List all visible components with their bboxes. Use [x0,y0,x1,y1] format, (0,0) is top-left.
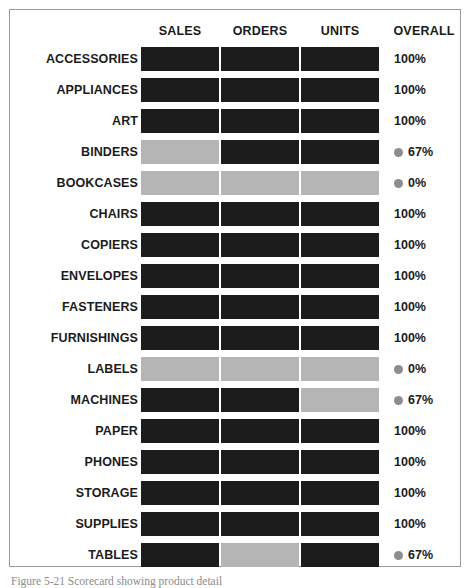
cell-units[interactable] [301,233,379,257]
table-row[interactable]: SUPPLIES100% [10,511,462,542]
row-label: ACCESSORIES [0,51,138,67]
cell-orders[interactable] [221,357,299,381]
overall-percent: 100% [394,300,426,314]
cell-sales[interactable] [141,140,219,164]
row-bars [141,264,379,288]
cell-units[interactable] [301,264,379,288]
cell-orders[interactable] [221,419,299,443]
cell-orders[interactable] [221,78,299,102]
cell-sales[interactable] [141,450,219,474]
row-label: ART [0,113,138,129]
table-row[interactable]: STORAGE100% [10,480,462,511]
cell-orders[interactable] [221,47,299,71]
alert-dot-icon [394,551,403,560]
table-row[interactable]: FURNISHINGS100% [10,325,462,356]
table-row[interactable]: TABLES67% [10,542,462,573]
cell-units[interactable] [301,109,379,133]
row-bars [141,202,379,226]
column-header-units: UNITS [301,22,379,40]
cell-sales[interactable] [141,78,219,102]
table-row[interactable]: COPIERS100% [10,232,462,263]
table-row[interactable]: ART100% [10,108,462,139]
table-row[interactable]: LABELS0% [10,356,462,387]
overall-score: 67% [386,546,462,564]
overall-percent: 0% [408,362,426,376]
cell-orders[interactable] [221,481,299,505]
cell-units[interactable] [301,388,379,412]
cell-units[interactable] [301,295,379,319]
cell-sales[interactable] [141,357,219,381]
cell-sales[interactable] [141,47,219,71]
cell-orders[interactable] [221,450,299,474]
cell-sales[interactable] [141,512,219,536]
cell-units[interactable] [301,419,379,443]
cell-orders[interactable] [221,512,299,536]
cell-orders[interactable] [221,264,299,288]
overall-percent: 100% [394,52,426,66]
cell-units[interactable] [301,481,379,505]
cell-units[interactable] [301,543,379,567]
table-row[interactable]: CHAIRS100% [10,201,462,232]
cell-orders[interactable] [221,326,299,350]
table-row[interactable]: PAPER100% [10,418,462,449]
overall-percent: 100% [394,486,426,500]
cell-units[interactable] [301,450,379,474]
cell-units[interactable] [301,78,379,102]
overall-score: 100% [386,515,462,533]
overall-score: 100% [386,329,462,347]
row-bars [141,481,379,505]
cell-orders[interactable] [221,295,299,319]
row-bars [141,512,379,536]
row-bars [141,140,379,164]
cell-sales[interactable] [141,481,219,505]
cell-units[interactable] [301,47,379,71]
cell-sales[interactable] [141,326,219,350]
alert-dot-icon [394,179,403,188]
cell-orders[interactable] [221,388,299,412]
table-row[interactable]: MACHINES67% [10,387,462,418]
overall-score: 100% [386,453,462,471]
table-row[interactable]: BOOKCASES0% [10,170,462,201]
table-row[interactable]: BINDERS67% [10,139,462,170]
overall-percent: 100% [394,331,426,345]
table-row[interactable]: APPLIANCES100% [10,77,462,108]
overall-percent: 100% [394,114,426,128]
chart-frame: SALES ORDERS UNITS OVERALL ACCESSORIES10… [9,9,461,567]
cell-sales[interactable] [141,264,219,288]
row-bars [141,47,379,71]
overall-percent: 0% [408,176,426,190]
cell-units[interactable] [301,140,379,164]
row-label: LABELS [0,361,138,377]
row-bars [141,419,379,443]
cell-units[interactable] [301,326,379,350]
cell-orders[interactable] [221,140,299,164]
row-bars [141,357,379,381]
cell-orders[interactable] [221,543,299,567]
cell-sales[interactable] [141,543,219,567]
row-label: SUPPLIES [0,516,138,532]
table-row[interactable]: PHONES100% [10,449,462,480]
cell-units[interactable] [301,171,379,195]
cell-sales[interactable] [141,202,219,226]
cell-orders[interactable] [221,171,299,195]
cell-orders[interactable] [221,202,299,226]
cell-orders[interactable] [221,109,299,133]
table-row[interactable]: FASTENERS100% [10,294,462,325]
cell-sales[interactable] [141,419,219,443]
cell-sales[interactable] [141,171,219,195]
figure-caption: Figure 5-21 Scorecard showing product de… [11,574,451,588]
table-row[interactable]: ACCESSORIES100% [10,46,462,77]
cell-sales[interactable] [141,295,219,319]
overall-percent: 100% [394,455,426,469]
cell-units[interactable] [301,512,379,536]
table-row[interactable]: ENVELOPES100% [10,263,462,294]
cell-units[interactable] [301,357,379,381]
overall-percent: 100% [394,207,426,221]
cell-sales[interactable] [141,109,219,133]
column-header-sales: SALES [141,22,219,40]
cell-units[interactable] [301,202,379,226]
cell-sales[interactable] [141,388,219,412]
cell-orders[interactable] [221,233,299,257]
overall-score: 67% [386,143,462,161]
cell-sales[interactable] [141,233,219,257]
